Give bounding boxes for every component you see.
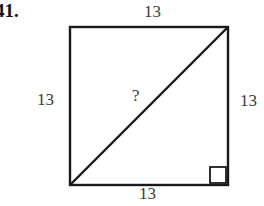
side-length-label-left: 13 [37,91,54,108]
side-length-label-bottom: 13 [139,185,156,202]
right-angle-marker-icon [210,167,226,183]
side-length-label-right: 13 [240,92,257,109]
side-length-label-top: 13 [144,3,161,20]
diagonal-unknown-label: ? [132,87,140,104]
diagonal-line [70,27,228,185]
geometry-figure-page: 41. 13 13 13 13 ? [0,0,264,206]
